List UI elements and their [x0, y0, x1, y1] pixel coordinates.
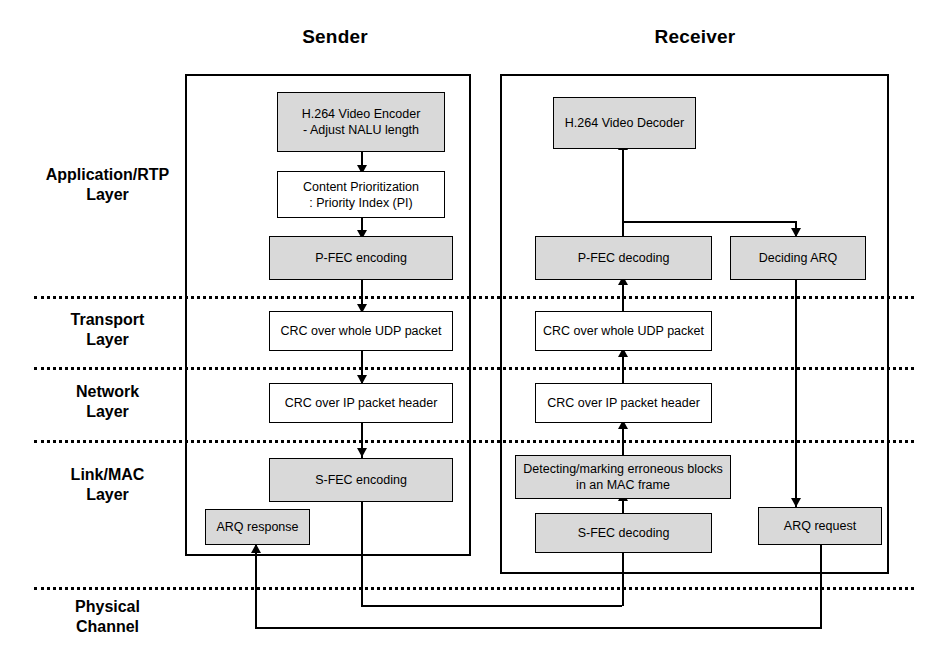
connector-branch-to-deciding-arq [622, 221, 797, 223]
column-title-sender: Sender [240, 26, 430, 48]
block-crc-ip-sender[interactable]: CRC over IP packet header [269, 383, 453, 423]
layer-label-network: Network Layer [30, 382, 185, 421]
arrowhead-crcip-to-sfec [357, 448, 367, 457]
block-p-fec-decoding[interactable]: P-FEC decoding [535, 236, 712, 280]
block-h264-video-encoder[interactable]: H.264 Video Encoder - Adjust NALU length [277, 92, 445, 152]
connector-arq-return-across [255, 627, 821, 629]
diagram-canvas: Sender Receiver Application/RTP Layer Tr… [0, 0, 934, 659]
layer-label-transport: Transport Layer [30, 310, 185, 349]
block-h264-video-decoder[interactable]: H.264 Video Decoder [553, 97, 696, 149]
block-arq-request[interactable]: ARQ request [758, 507, 882, 545]
column-title-receiver: Receiver [600, 26, 790, 48]
block-deciding-arq[interactable]: Deciding ARQ [730, 236, 866, 280]
block-crc-udp-sender[interactable]: CRC over whole UDP packet [269, 311, 453, 351]
arrowhead-arq-into-response [251, 544, 261, 553]
block-arq-response[interactable]: ARQ response [205, 509, 310, 545]
layer-divider-link-physical [34, 587, 914, 590]
block-content-prioritization[interactable]: Content Prioritization : Priority Index … [277, 171, 445, 218]
layer-label-physical: Physical Channel [30, 597, 185, 636]
layer-label-application-rtp: Application/RTP Layer [30, 165, 185, 204]
connector-sfec-encoding-across [361, 605, 622, 607]
block-crc-ip-receiver[interactable]: CRC over IP packet header [535, 383, 712, 423]
connector-sfec-encoding-down [361, 501, 363, 607]
block-detecting-marking[interactable]: Detecting/marking erroneous blocks in an… [515, 455, 731, 499]
arrowhead-deciding-to-arq-request [791, 498, 801, 507]
block-s-fec-decoding[interactable]: S-FEC decoding [535, 513, 712, 553]
connector-arq-into-response [255, 544, 257, 629]
layer-label-link-mac: Link/MAC Layer [30, 465, 185, 504]
connector-arq-request-down [820, 545, 822, 629]
block-s-fec-encoding[interactable]: S-FEC encoding [269, 458, 453, 502]
block-p-fec-encoding[interactable]: P-FEC encoding [269, 236, 453, 280]
block-crc-udp-receiver[interactable]: CRC over whole UDP packet [535, 311, 712, 351]
connector-deciding-to-arq-request [795, 279, 797, 507]
connector-channel-to-sfec-decoding [622, 546, 624, 606]
